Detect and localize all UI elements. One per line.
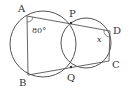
right-circle [61,18,111,68]
label-A: A [17,3,26,14]
angle-label-D: x [97,35,102,44]
segment-DC [109,31,110,61]
label-C: C [112,59,120,70]
point-P [70,22,72,24]
geometry-diagram: A P D B Q C 80° x [0,0,128,92]
angle-label-A: 80° [32,26,46,35]
angle-arc-A [27,17,33,22]
point-Q [70,66,72,68]
label-D: D [113,25,121,36]
left-circle [10,11,76,77]
label-P: P [69,8,76,19]
label-B: B [19,77,26,88]
label-Q: Q [67,72,75,83]
segment-AB [27,16,28,75]
